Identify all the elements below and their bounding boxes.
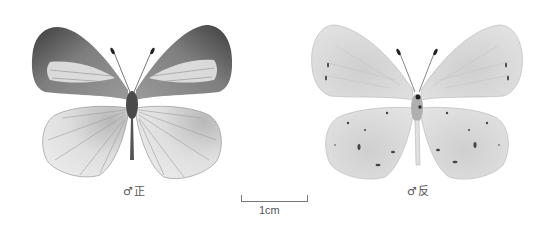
scale-bar-label: 1cm [259,204,280,216]
right-forewing [136,25,232,100]
specimen-label-underside: ♂反 [407,182,430,198]
specimen-underside [275,0,550,200]
butterfly-underside-image [275,0,550,200]
butterfly-upperside-image [0,0,275,200]
specimen-upperside [0,0,275,200]
left-forewing [32,27,128,100]
scale-bar [241,195,308,202]
specimen-label-upperside: ♂正 [123,182,146,198]
